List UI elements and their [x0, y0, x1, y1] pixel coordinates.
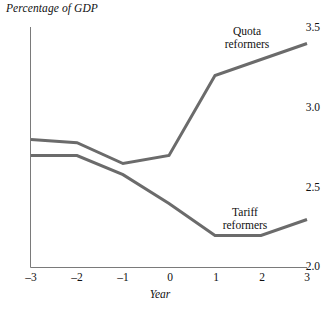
series-annotation-tariff-line2: reformers: [223, 219, 268, 231]
series-annotation-tariff-line1: Tariff: [232, 206, 258, 218]
series-annotation-quota-reformers: Quota reformers: [205, 25, 289, 51]
series-line-quota-reformers: [31, 44, 307, 164]
series-annotation-quota-line1: Quota: [233, 25, 261, 37]
series-annotation-quota-line2: reformers: [225, 38, 270, 50]
series-annotation-tariff-reformers: Tariff reformers: [203, 206, 287, 232]
x-axis-title: Year: [0, 288, 320, 300]
